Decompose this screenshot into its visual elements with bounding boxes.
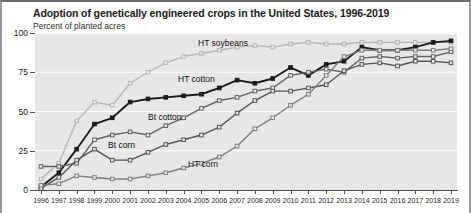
chart-subtitle: Percent of planted acres [33, 21, 125, 31]
x-tick [255, 190, 256, 194]
plot-area [35, 33, 457, 190]
data-point [200, 133, 204, 137]
series-line [41, 41, 451, 187]
data-point [396, 41, 400, 45]
x-tick [130, 190, 131, 194]
data-point [182, 94, 186, 98]
data-point [75, 147, 79, 151]
data-point [396, 56, 400, 60]
data-point [39, 177, 43, 181]
data-point [93, 147, 97, 151]
data-point [217, 99, 221, 103]
data-point [307, 70, 311, 74]
data-point [378, 48, 382, 52]
data-point [378, 41, 382, 45]
data-point [307, 41, 311, 45]
data-point [57, 171, 61, 175]
data-point [324, 83, 328, 87]
data-point [93, 138, 97, 142]
data-point [324, 74, 328, 78]
y-tick [30, 33, 35, 34]
data-point [146, 174, 150, 178]
series-line [41, 61, 451, 188]
series-label-bt-cotton: Bt cotton [148, 112, 182, 122]
data-point [75, 119, 79, 123]
data-point [324, 67, 328, 71]
data-point [431, 59, 435, 63]
data-point [111, 103, 115, 107]
series-label-bt-corn: Bt corn [108, 140, 135, 150]
x-tick [291, 190, 292, 194]
data-point [200, 107, 204, 111]
series-ht-cotton [39, 39, 453, 189]
data-point [449, 47, 453, 51]
data-point [164, 61, 168, 65]
data-point [449, 61, 453, 65]
x-tick [94, 190, 95, 194]
data-point [128, 158, 132, 162]
data-point [431, 48, 435, 52]
x-tick [237, 190, 238, 194]
y-tick-label: 75 [4, 67, 28, 77]
x-tick [219, 190, 220, 194]
data-point [235, 78, 239, 82]
data-point [146, 133, 150, 137]
data-point [360, 48, 364, 52]
x-tick [77, 190, 78, 194]
series-line [41, 42, 451, 179]
x-tick [344, 190, 345, 194]
data-point [182, 166, 186, 170]
data-point [217, 48, 221, 52]
data-point [414, 55, 418, 59]
x-tick [201, 190, 202, 194]
data-point [146, 151, 150, 155]
data-point [360, 63, 364, 67]
data-point [235, 111, 239, 115]
data-point [39, 183, 43, 187]
data-point [324, 63, 328, 67]
data-point [396, 64, 400, 68]
data-point [164, 124, 168, 128]
data-point [217, 125, 221, 129]
data-point [200, 92, 204, 96]
x-tick-label: 2019 [438, 197, 464, 204]
data-point [342, 55, 346, 59]
data-point [342, 69, 346, 73]
data-point [75, 174, 79, 178]
data-point [289, 66, 293, 70]
data-point [289, 103, 293, 107]
series-label-ht-corn: HT corn [188, 159, 218, 169]
y-tick [30, 72, 35, 73]
data-point [431, 55, 435, 59]
data-point [360, 56, 364, 60]
data-point [396, 48, 400, 52]
x-tick [415, 190, 416, 194]
data-point [111, 116, 115, 120]
data-point [93, 100, 97, 104]
series-ht-soybeans [39, 41, 453, 181]
data-point [182, 55, 186, 59]
data-point [307, 86, 311, 90]
series-label-ht-cotton: HT cotton [178, 74, 215, 84]
data-point [200, 52, 204, 56]
data-point [253, 127, 257, 131]
data-point [449, 39, 453, 43]
series-ht-corn [39, 47, 453, 187]
data-point [253, 89, 257, 93]
x-tick [41, 190, 42, 194]
data-point [146, 97, 150, 101]
x-tick [398, 190, 399, 194]
x-tick [433, 190, 434, 194]
data-point [253, 44, 257, 48]
chart-title: Adoption of genetically engineered crops… [33, 7, 389, 19]
y-tick-label: 0 [4, 185, 28, 195]
chart-figure: Adoption of genetically engineered crops… [0, 0, 471, 213]
data-point [378, 55, 382, 59]
data-point [164, 171, 168, 175]
x-tick [273, 190, 274, 194]
data-point [271, 89, 275, 93]
y-tick [30, 151, 35, 152]
data-point [182, 116, 186, 120]
data-point [342, 42, 346, 46]
data-point [235, 96, 239, 100]
